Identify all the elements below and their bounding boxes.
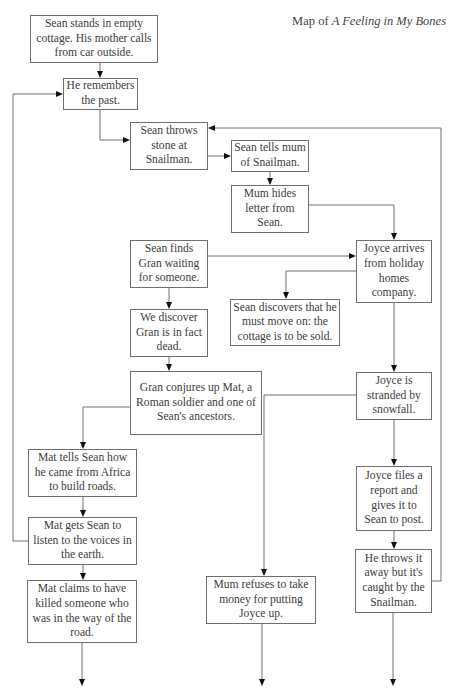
connector bbox=[309, 205, 394, 234]
node-joyce-files-report: Joyce files a report and gives it to Sea… bbox=[356, 466, 432, 531]
node-remembers-past: He remembers the past. bbox=[63, 78, 138, 110]
arrowhead-icon bbox=[80, 573, 86, 580]
arrowhead-icon bbox=[80, 442, 86, 449]
node-throws-report-away: He throws it away but it's caught by the… bbox=[355, 549, 432, 613]
arrowhead-icon bbox=[391, 459, 397, 466]
node-text: We discover Gran is in fact dead. bbox=[133, 311, 205, 355]
arrowhead-icon bbox=[390, 679, 396, 686]
node-text: Joyce arrives from holiday homes company… bbox=[359, 242, 429, 300]
node-text: Sean stands in empty cottage. His mother… bbox=[33, 17, 155, 61]
node-text: Mat claims to have killed someone who wa… bbox=[30, 582, 134, 640]
node-text: He remembers the past. bbox=[66, 79, 135, 108]
node-voices-in-earth: Mat gets Sean to listen to the voices in… bbox=[28, 517, 137, 565]
connector bbox=[100, 110, 124, 140]
node-gran-dead: We discover Gran is in fact dead. bbox=[130, 309, 208, 357]
connector bbox=[264, 395, 356, 570]
arrowhead-icon bbox=[267, 178, 273, 185]
node-text: Mum hides letter from Sean. bbox=[234, 187, 306, 231]
arrowhead-icon bbox=[80, 510, 86, 517]
connector bbox=[83, 407, 130, 443]
arrowhead-icon bbox=[79, 679, 85, 686]
arrowhead-icon bbox=[224, 153, 231, 159]
node-text: Mum refuses to take money for putting Jo… bbox=[209, 578, 313, 622]
node-text: He throws it away but it's caught by the… bbox=[358, 552, 429, 610]
node-joyce-arrives: Joyce arrives from holiday homes company… bbox=[356, 240, 432, 303]
node-text: Mat tells Sean how he came from Africa t… bbox=[31, 451, 134, 495]
arrowhead-icon bbox=[166, 302, 172, 309]
arrowhead-icon bbox=[261, 569, 267, 576]
arrowhead-icon bbox=[123, 137, 130, 143]
arrowhead-icon bbox=[259, 679, 265, 686]
arrowhead-icon bbox=[391, 542, 397, 549]
node-text: Joyce is stranded by snowfall. bbox=[359, 374, 429, 418]
node-mat-from-africa: Mat tells Sean how he came from Africa t… bbox=[28, 449, 137, 497]
connector bbox=[286, 271, 356, 293]
node-joyce-stranded: Joyce is stranded by snowfall. bbox=[356, 372, 432, 420]
node-text: Sean tells mum of Snailman. bbox=[234, 141, 306, 170]
arrowhead-icon bbox=[283, 292, 289, 299]
node-finds-gran: Sean finds Gran waiting for someone. bbox=[130, 240, 208, 288]
node-gran-conjures-mat: Gran conjures up Mat, a Roman soldier an… bbox=[130, 371, 262, 435]
node-sean-stands: Sean stands in empty cottage. His mother… bbox=[30, 15, 158, 63]
node-tells-mum: Sean tells mum of Snailman. bbox=[231, 140, 309, 172]
arrowhead-icon bbox=[349, 253, 356, 259]
node-must-move-on: Sean discovers that he must move on: the… bbox=[230, 299, 340, 346]
node-throws-stone: Sean throws stone at Snailman. bbox=[130, 122, 208, 170]
arrowhead-icon bbox=[166, 364, 172, 371]
node-text: Joyce files a report and gives it to Sea… bbox=[359, 469, 429, 527]
arrowhead-icon bbox=[56, 91, 63, 97]
node-text: Mat gets Sean to listen to the voices in… bbox=[31, 519, 134, 563]
arrowhead-icon bbox=[391, 233, 397, 240]
node-text: Sean discovers that he must move on: the… bbox=[233, 301, 337, 345]
arrowhead-icon bbox=[97, 71, 103, 78]
node-mum-refuses-money: Mum refuses to take money for putting Jo… bbox=[206, 576, 316, 624]
arrowhead-icon bbox=[208, 125, 215, 131]
node-mum-hides-letter: Mum hides letter from Sean. bbox=[231, 185, 309, 233]
node-text: Sean finds Gran waiting for someone. bbox=[133, 242, 205, 286]
node-text: Sean throws stone at Snailman. bbox=[133, 124, 205, 168]
arrowhead-icon bbox=[391, 365, 397, 372]
node-text: Gran conjures up Mat, a Roman soldier an… bbox=[133, 381, 259, 425]
node-mat-killed-someone: Mat claims to have killed someone who wa… bbox=[27, 580, 137, 643]
